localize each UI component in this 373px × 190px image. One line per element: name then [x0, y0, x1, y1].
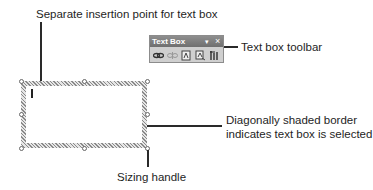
- sizing-handle-bottom-left[interactable]: [19, 146, 24, 151]
- next-text-box-icon: [195, 50, 206, 61]
- sizing-handle-mid-left[interactable]: [19, 112, 24, 117]
- text-box-toolbar[interactable]: Text Box ▾ ×: [149, 35, 224, 63]
- toolbar-close-icon[interactable]: ×: [215, 36, 220, 47]
- text-box-selected[interactable]: [21, 81, 147, 148]
- change-text-direction-button[interactable]: [209, 50, 220, 61]
- border-label-line2: indicates text box is selected: [226, 127, 372, 141]
- link-icon: [153, 50, 164, 61]
- sizing-handle-label: Sizing handle: [117, 170, 186, 184]
- insertion-cursor: [31, 89, 33, 98]
- toolbar-options-icon[interactable]: ▾: [205, 36, 209, 47]
- sizing-handle-leader: [147, 150, 149, 167]
- toolbar-label: Text box toolbar: [241, 40, 322, 54]
- sizing-handle-mid-right[interactable]: [145, 112, 150, 117]
- sizing-handle-top-mid[interactable]: [82, 79, 87, 84]
- next-text-box-button[interactable]: [195, 50, 206, 61]
- insertion-point-label: Separate insertion point for text box: [36, 7, 218, 21]
- break-forward-link-button[interactable]: [167, 50, 178, 61]
- sizing-handle-top-left[interactable]: [19, 79, 24, 84]
- border-leader: [147, 125, 222, 127]
- toolbar-leader: [224, 46, 238, 48]
- previous-text-box-icon: [181, 50, 192, 61]
- break-link-icon: [167, 50, 178, 61]
- border-label-line1: Diagonally shaded border: [226, 113, 357, 127]
- text-direction-icon: [209, 50, 220, 61]
- previous-text-box-button[interactable]: [181, 50, 192, 61]
- toolbar-title[interactable]: Text Box: [150, 36, 223, 47]
- sizing-handle-top-right[interactable]: [145, 79, 150, 84]
- create-text-box-link-button[interactable]: [153, 50, 164, 61]
- sizing-handle-bottom-mid[interactable]: [82, 146, 87, 151]
